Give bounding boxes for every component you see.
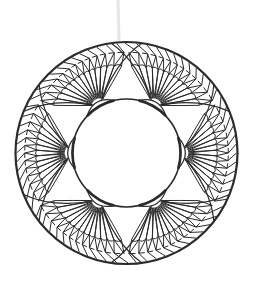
inner-circle [73,99,181,207]
floral-ring-artwork: Circular floral ring line art [0,0,253,287]
outer-circle [16,42,238,264]
ring-mandala-icon [0,0,253,287]
crescent-caps [68,100,186,207]
faint-smudge [118,0,119,40]
petal-fans [17,43,237,263]
